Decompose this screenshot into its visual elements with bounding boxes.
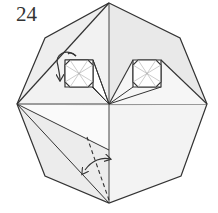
origami-diagram: [0, 0, 218, 213]
